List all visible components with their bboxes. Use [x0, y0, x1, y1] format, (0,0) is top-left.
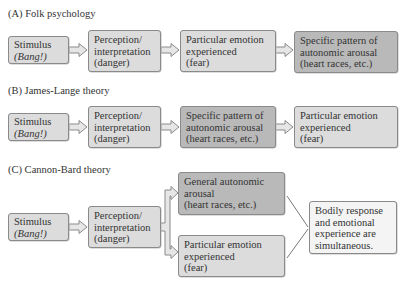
box-text: interpretation: [94, 122, 155, 134]
arrow-icon: [69, 44, 87, 57]
box-text: and emotional: [315, 217, 391, 229]
emotion-box: Particular emotion experienced (fear): [178, 235, 285, 277]
box-text: experienced: [184, 251, 279, 263]
fork-arrow-icon: [160, 187, 178, 259]
box-text: Perception/: [94, 34, 155, 46]
box-text: (heart races, etc.): [300, 58, 392, 70]
box-text: Perception/: [94, 110, 155, 122]
panel-b-title: (B) James-Lange theory: [8, 85, 109, 96]
arrow-icon: [69, 221, 87, 234]
perception-box: Perception/ interpretation (danger): [88, 206, 161, 248]
simultaneous-box: Bodily response and emotional experience…: [309, 201, 397, 254]
stimulus-box: Stimulus (Bang!): [8, 213, 69, 241]
arousal-box: Specific pattern of autonomic arousal (h…: [180, 106, 276, 148]
arrow-icon: [275, 121, 293, 134]
box-text: (fear): [300, 133, 392, 145]
box-text: (Bang!): [14, 128, 63, 140]
box-text: experienced: [186, 46, 270, 58]
emotion-box: Particular emotion experienced (fear): [294, 106, 398, 148]
arrow-icon: [161, 44, 179, 57]
box-text: Perception/: [94, 210, 155, 222]
box-text: (danger): [94, 57, 155, 69]
general-arousal-box: General autonomic arousal (heart races, …: [178, 172, 285, 215]
panel-a-title: (A) Folk psychology: [8, 8, 96, 19]
arrow-icon: [275, 44, 293, 57]
emotion-box: Particular emotion experienced (fear): [180, 30, 276, 72]
box-text: (danger): [94, 133, 155, 145]
box-text: (heart races, etc.): [186, 133, 270, 145]
box-text: arousal: [184, 188, 279, 200]
box-text: (heart races, etc.): [184, 199, 279, 211]
box-text: Stimulus: [14, 216, 63, 228]
perception-box: Perception/ interpretation (danger): [88, 30, 161, 72]
box-text: (Bang!): [14, 228, 63, 240]
box-text: General autonomic: [184, 176, 279, 188]
box-text: Particular emotion: [300, 110, 392, 122]
box-text: Stimulus: [14, 116, 63, 128]
box-text: interpretation: [94, 46, 155, 58]
box-text: simultaneous.: [315, 240, 391, 252]
stimulus-box: Stimulus (Bang!): [8, 36, 69, 64]
box-text: Particular emotion: [184, 239, 279, 251]
panel-c-title: (C) Cannon-Bard theory: [8, 164, 111, 175]
perception-box: Perception/ interpretation (danger): [88, 106, 161, 148]
box-text: (fear): [186, 57, 270, 69]
box-text: autonomic arousal: [300, 47, 392, 59]
box-text: Stimulus: [14, 39, 63, 51]
arrow-icon: [161, 121, 179, 134]
box-text: (Bang!): [14, 51, 63, 63]
box-text: Specific pattern of: [186, 110, 270, 122]
box-text: experience are: [315, 228, 391, 240]
arrow-icon: [69, 121, 87, 134]
box-text: Specific pattern of: [300, 35, 392, 47]
box-text: (danger): [94, 233, 155, 245]
box-text: interpretation: [94, 222, 155, 234]
box-text: (fear): [184, 262, 279, 274]
arousal-box: Specific pattern of autonomic arousal (h…: [294, 31, 398, 73]
box-text: experienced: [300, 122, 392, 134]
stimulus-box: Stimulus (Bang!): [8, 113, 69, 141]
box-text: Particular emotion: [186, 34, 270, 46]
box-text: autonomic arousal: [186, 122, 270, 134]
box-text: Bodily response: [315, 205, 391, 217]
